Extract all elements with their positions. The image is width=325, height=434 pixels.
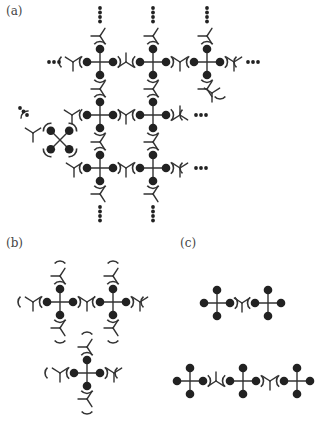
continuation-dot [204, 113, 208, 117]
continuation-dot [205, 15, 209, 19]
tetrahedral-node [187, 42, 228, 83]
continuation-dot [47, 60, 51, 64]
y-linker [172, 57, 187, 71]
bracket-cap [82, 411, 93, 414]
continuation-dot [151, 6, 155, 10]
bracket-cap [18, 297, 21, 308]
continuation-dot [205, 11, 209, 15]
bracket-cap [55, 261, 66, 264]
tetrahedral-node [67, 353, 108, 394]
tetrahedral-node [133, 148, 174, 189]
bracket-cap [55, 340, 66, 343]
continuation-dot [98, 15, 102, 19]
y-linker [25, 128, 40, 142]
y-linker [262, 376, 277, 390]
continuation-dot [98, 210, 102, 214]
continuation-dot [18, 106, 22, 110]
continuation-dot [194, 113, 198, 117]
continuation-dot [205, 20, 209, 24]
continuation-dot [98, 20, 102, 24]
continuation-dot [251, 60, 255, 64]
tetrahedral-node [248, 286, 286, 321]
tetrahedral-node [200, 286, 238, 321]
continuation-dot [98, 6, 102, 10]
bracket-cap [215, 96, 226, 99]
y-linker [106, 368, 121, 382]
continuation-dot [246, 60, 250, 64]
y-linker [64, 110, 79, 124]
panel-c-chains [173, 286, 315, 399]
y-linker [25, 297, 40, 311]
y-linker [52, 368, 67, 382]
continuation-dot [98, 214, 102, 218]
continuation-dot [204, 166, 208, 170]
panel-b-fragment [18, 261, 148, 414]
continuation-dot [151, 205, 155, 209]
bracket-cap [141, 297, 144, 308]
tetrahedral-node [80, 95, 121, 136]
bracket-cap [108, 340, 119, 343]
y-linker [204, 88, 219, 102]
network-diagram [0, 0, 325, 434]
bracket-cap [115, 368, 118, 379]
continuation-dot [199, 166, 203, 170]
y-linker [132, 297, 147, 311]
tetrahedral-node [173, 364, 211, 399]
continuation-dot [151, 214, 155, 218]
continuation-dot [98, 205, 102, 209]
tetrahedral-node [133, 95, 174, 136]
tetrahedral-node [80, 148, 121, 189]
continuation-dot [151, 219, 155, 223]
continuation-dot [52, 60, 56, 64]
y-linker [65, 57, 80, 71]
continuation-dot [98, 11, 102, 15]
continuation-dot [25, 113, 29, 117]
continuation-dot [57, 60, 61, 64]
continuation-dot [98, 219, 102, 223]
continuation-dot [256, 60, 260, 64]
continuation-dot [151, 11, 155, 15]
continuation-dot [151, 15, 155, 19]
continuation-dot [22, 110, 26, 114]
continuation-dot [199, 113, 203, 117]
bracket-cap [108, 261, 119, 264]
tetrahedral-node [93, 282, 134, 323]
tetrahedral-node [223, 364, 264, 399]
tetrahedral-node [40, 282, 81, 323]
tetrahedral-node [80, 42, 121, 83]
panel-a-network [18, 6, 260, 222]
continuation-dot [151, 210, 155, 214]
continuation-dot [151, 20, 155, 24]
tetrahedral-node [277, 364, 315, 399]
tetrahedral-node [133, 42, 174, 83]
continuation-dot [205, 6, 209, 10]
bracket-cap [82, 332, 93, 335]
continuation-dot [194, 166, 198, 170]
bracket-cap [45, 368, 48, 379]
